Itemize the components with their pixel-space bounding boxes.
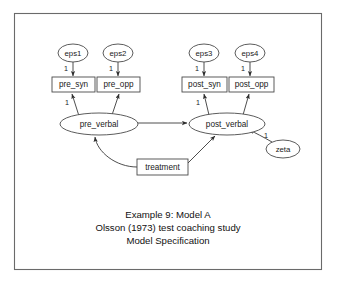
node-eps1-label: eps1 xyxy=(65,49,82,58)
node-post_verbal-label: post_verbal xyxy=(206,120,249,129)
edge-post_verbal-to-post_syn xyxy=(204,94,209,115)
coef-zeta-load: 1 xyxy=(264,131,268,140)
caption-line-2: Olsson (1973) test coaching study xyxy=(95,222,240,233)
node-treatment-label: treatment xyxy=(145,163,180,172)
caption-line-3: Model Specification xyxy=(126,235,209,246)
coef-eps3-load: 1 xyxy=(195,64,199,73)
observed-nodes: pre_syn pre_opp post_syn post_opp xyxy=(52,77,274,92)
edge-treatment-to-pre_verbal xyxy=(95,137,137,167)
coef-post-load: 1 xyxy=(196,98,200,107)
exogenous-nodes: treatment xyxy=(137,159,188,175)
coef-eps2-load: 1 xyxy=(109,64,113,73)
node-pre_opp-label: pre_opp xyxy=(103,80,133,89)
node-eps4-label: eps4 xyxy=(242,49,260,58)
coef-pre-load: 1 xyxy=(65,98,69,107)
coef-eps1-load: 1 xyxy=(64,64,68,73)
node-eps2-label: eps2 xyxy=(110,49,127,58)
edge-treatment-to-post_verbal xyxy=(188,136,215,163)
latent-nodes: pre_verbal post_verbal xyxy=(60,113,265,135)
disturbance-nodes: zeta xyxy=(266,140,300,158)
edge-pre_verbal-to-pre_syn xyxy=(72,94,79,116)
edge-post_verbal-to-post_opp xyxy=(243,94,249,115)
edge-pre_verbal-to-pre_opp xyxy=(112,94,119,115)
figure-caption: Example 9: Model A Olsson (1973) test co… xyxy=(95,209,240,246)
caption-line-1: Example 9: Model A xyxy=(125,209,211,220)
node-eps3-label: eps3 xyxy=(196,49,213,58)
node-pre_verbal-label: pre_verbal xyxy=(80,120,119,129)
error-nodes: eps1 eps2 eps3 eps4 xyxy=(58,44,265,62)
node-post_syn-label: post_syn xyxy=(188,80,221,89)
node-zeta-label: zeta xyxy=(276,145,291,154)
coef-eps4-load: 1 xyxy=(241,64,245,73)
figure-canvas: eps1 eps2 eps3 eps4 pre_syn pre_opp post… xyxy=(0,0,338,285)
node-post_opp-label: post_opp xyxy=(235,80,269,89)
node-pre_syn-label: pre_syn xyxy=(59,80,89,89)
